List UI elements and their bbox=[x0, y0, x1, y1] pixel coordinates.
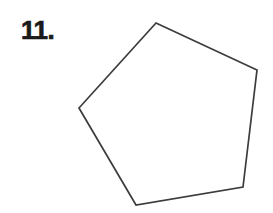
pentagon-figure bbox=[0, 0, 273, 213]
pentagon-outline bbox=[79, 23, 257, 205]
worksheet-figure: 11. bbox=[0, 0, 273, 213]
